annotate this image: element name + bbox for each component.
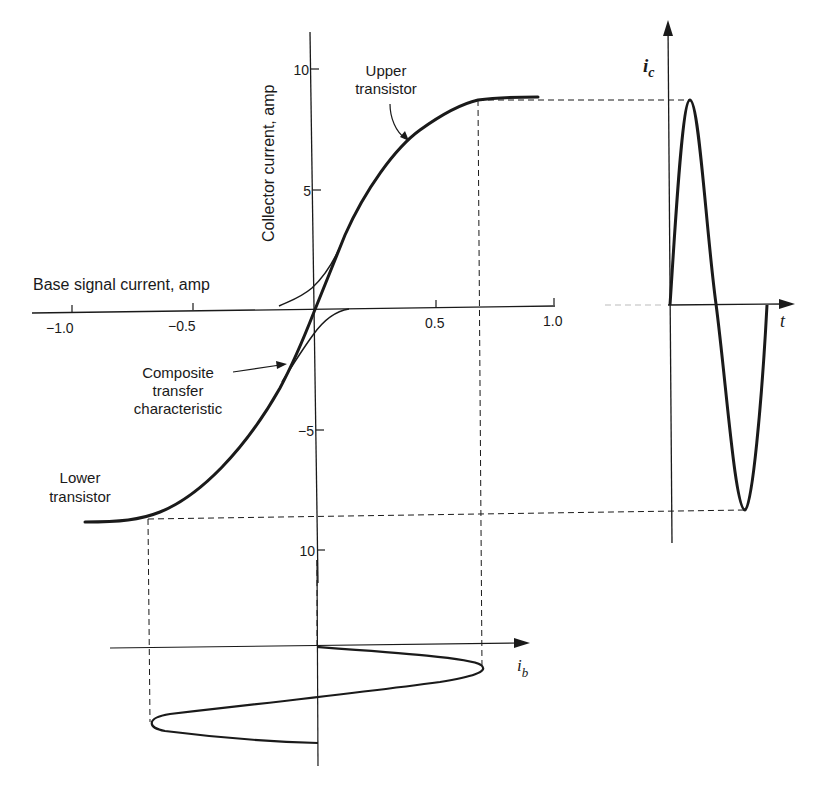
composite-annotation: Composite transfer characteristic	[134, 361, 287, 417]
ib-axis-arrowhead-icon	[514, 638, 530, 648]
lower-transistor-annotation: Lower transistor	[49, 469, 111, 505]
ib-time-axis	[317, 560, 318, 766]
t-axis-arrowhead-icon	[779, 299, 795, 309]
ib-subscript: b	[522, 665, 529, 680]
ic-axis-label: ic	[643, 55, 655, 80]
arrowhead-icon	[400, 131, 409, 141]
y-tick-label: 10	[299, 543, 315, 559]
composite-label: transfer	[153, 382, 204, 399]
ic-axis-arrowhead-icon	[663, 20, 673, 36]
upper-transistor-label: Upper	[366, 62, 407, 79]
upper-transistor-arrow	[390, 104, 405, 138]
dashed-lower-to-ic	[148, 510, 745, 519]
x-tick-label: 1.0	[543, 313, 563, 329]
t-axis-label: t	[780, 311, 786, 331]
y-tick-label: 5	[303, 183, 311, 199]
x-axis	[32, 306, 555, 313]
transfer-characteristic-figure: −1.0 −0.5 0.5 1.0 10 5 −5 10 Base signal…	[0, 0, 819, 793]
ib-axis-label: ib	[517, 656, 529, 680]
upper-transistor-label: transistor	[355, 80, 417, 97]
upper-transistor-annotation: Upper transistor	[355, 62, 417, 141]
projection-lines	[148, 100, 745, 722]
ic-output-plot: ic t	[643, 20, 795, 543]
arrowhead-icon	[276, 361, 287, 369]
dashed-lower-to-ib	[148, 519, 150, 722]
ic-subscript: c	[648, 65, 655, 80]
upper-transistor-curve	[279, 235, 345, 306]
dashed-upper-to-ib	[478, 100, 482, 668]
lower-transistor-label: Lower	[60, 469, 101, 486]
y-axis-title: Collector current, amp	[260, 85, 277, 242]
y-tick-label: 10	[293, 62, 309, 78]
x-axis-title: Base signal current, amp	[33, 276, 210, 293]
composite-label: characteristic	[134, 400, 223, 417]
x-tick-label: −0.5	[168, 318, 196, 334]
x-tick-label: −1.0	[46, 320, 74, 336]
ib-horizontal-axis	[110, 643, 522, 648]
composite-arrow	[233, 365, 280, 372]
t-axis	[668, 304, 788, 305]
x-tick-label: 0.5	[425, 315, 445, 331]
composite-label: Composite	[142, 364, 214, 381]
y-tick-label: −5	[298, 423, 314, 439]
lower-transistor-label: transistor	[49, 488, 111, 505]
ib-input-plot: ib	[110, 560, 530, 766]
